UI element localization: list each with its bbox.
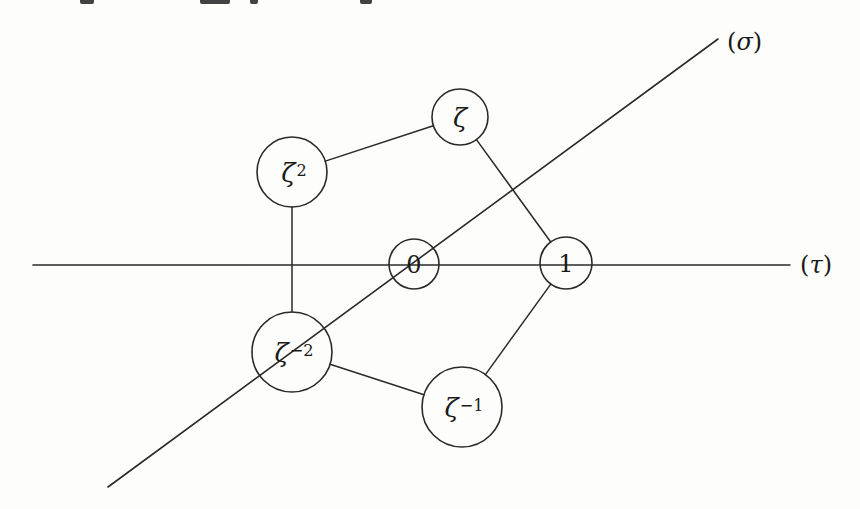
- node-circle-zeta: [432, 89, 488, 145]
- edge-zeta-one: [476, 140, 550, 242]
- edge-zetam1-one: [485, 284, 550, 374]
- edges-layer: [292, 126, 551, 395]
- axis-line-sigma: [108, 39, 718, 487]
- axis-label-tau: (τ): [800, 253, 832, 277]
- axis-label-sigma: (σ): [727, 30, 762, 54]
- diagram-canvas: (τ)(σ)ζζ201ζ−2ζ−1: [0, 0, 860, 509]
- graph-diagram: [0, 0, 860, 509]
- edge-zetam2-zetam1: [330, 364, 424, 394]
- clipped-text-line: [60, 0, 800, 4]
- node-circle-zetam1: [422, 367, 502, 447]
- node-circle-one: [540, 237, 592, 289]
- node-circle-zero: [389, 239, 439, 289]
- axes-layer: [33, 39, 790, 487]
- node-circle-zeta2: [257, 137, 327, 207]
- edge-zeta2-zeta: [325, 126, 433, 161]
